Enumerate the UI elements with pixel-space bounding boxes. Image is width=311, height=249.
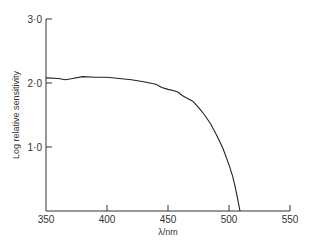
ticks: 3504004505005501·02·03·0 [28,14,299,226]
chart: 3504004505005501·02·03·0 λ/nm Log relati… [0,0,311,249]
x-tick-label: 400 [99,214,116,225]
y-tick-label: 1·0 [28,142,43,153]
series-line-sensitivity [46,77,240,211]
y-tick-label: 3·0 [28,14,43,25]
x-tick-label: 550 [282,214,299,225]
x-tick-label: 450 [160,214,177,225]
y-tick-label: 2·0 [28,78,43,89]
x-axis-label: λ/nm [158,227,178,237]
series-lines [46,77,240,211]
axes [46,19,290,211]
x-tick-label: 500 [221,214,238,225]
x-tick-label: 350 [38,214,55,225]
y-axis-label: Log relative sensitivity [11,70,21,159]
